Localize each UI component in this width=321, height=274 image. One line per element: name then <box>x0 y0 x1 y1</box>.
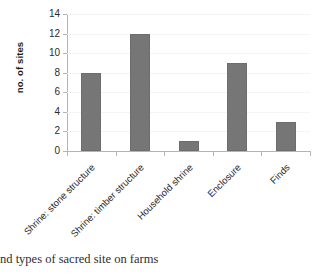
x-axis-tick-mark <box>310 152 311 156</box>
y-axis-tick-mark <box>63 131 67 132</box>
y-axis-tick-label: 12 <box>36 28 60 39</box>
x-axis-tick-mark <box>261 152 262 156</box>
y-axis-tick-mark <box>63 73 67 74</box>
bar-chart-figure: no. of sites 02468101214 Shrine: stone s… <box>0 0 321 274</box>
x-axis-tick-mark <box>116 152 117 156</box>
bar <box>130 34 150 151</box>
y-axis-tick-label: 8 <box>36 67 60 78</box>
x-axis-tick-label: Enclosure <box>150 162 243 255</box>
bar <box>81 73 101 151</box>
y-axis-tick-mark <box>63 92 67 93</box>
y-axis-tick-label: 14 <box>36 8 60 19</box>
x-axis-tick-label: Shrine: stone structure <box>5 162 98 255</box>
y-axis-tick-label: 6 <box>36 86 60 97</box>
x-axis-tick-label: Shrine: timber structure <box>53 162 146 255</box>
y-axis-tick-label: 0 <box>36 145 60 156</box>
x-axis-tick-mark <box>213 152 214 156</box>
figure-caption: nd types of sacred site on farms <box>0 252 321 267</box>
x-axis-line <box>67 151 311 152</box>
x-axis-tick-label: Finds <box>199 162 292 255</box>
plot-area <box>67 14 310 151</box>
y-axis-tick-mark <box>63 53 67 54</box>
x-axis-tick-mark <box>67 152 68 156</box>
y-axis-tick-mark <box>63 34 67 35</box>
y-axis-tick-mark <box>63 112 67 113</box>
y-axis-tick-label: 4 <box>36 106 60 117</box>
y-axis-tick-label: 10 <box>36 47 60 58</box>
y-axis-tick-label: 2 <box>36 125 60 136</box>
y-axis-tick-mark <box>63 14 67 15</box>
bar <box>276 122 296 151</box>
x-axis-tick-label: Household shrine <box>102 162 195 255</box>
x-axis-tick-mark <box>164 152 165 156</box>
y-axis-title: no. of sites <box>14 25 25 111</box>
bar-series <box>67 14 310 151</box>
bar <box>227 63 247 151</box>
bar <box>179 141 199 151</box>
